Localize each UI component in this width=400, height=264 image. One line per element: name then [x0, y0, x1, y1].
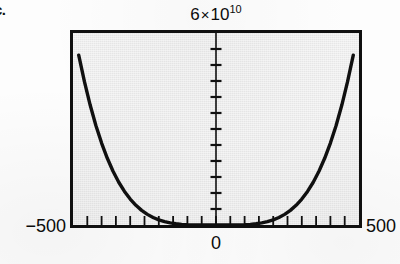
plot-title: 6×1010: [70, 4, 362, 26]
plot-canvas: [73, 33, 359, 225]
title-exponent: 10: [229, 3, 241, 15]
title-base: 10: [211, 5, 230, 24]
figure-scan: c. 6×1010 −500 500 0: [0, 0, 400, 264]
x-axis-max-label: 500: [366, 216, 396, 236]
multiplication-sign-icon: ×: [200, 6, 211, 23]
x-axis-min-label: −500: [25, 216, 66, 236]
title-mantissa: 6: [190, 5, 199, 24]
item-letter-label: c.: [0, 2, 6, 18]
y-axis: [211, 33, 222, 225]
x-axis-zero-label: 0: [70, 233, 362, 253]
plot-frame: [70, 30, 362, 228]
